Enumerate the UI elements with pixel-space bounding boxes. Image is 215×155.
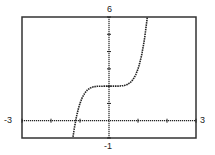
- y-max-label: 6: [107, 5, 112, 14]
- y-min-label: -1: [104, 142, 112, 151]
- function-curve: [73, 17, 147, 137]
- x-max-label: 3: [200, 116, 205, 125]
- graph-plot: [0, 0, 215, 155]
- x-min-label: -3: [4, 116, 12, 125]
